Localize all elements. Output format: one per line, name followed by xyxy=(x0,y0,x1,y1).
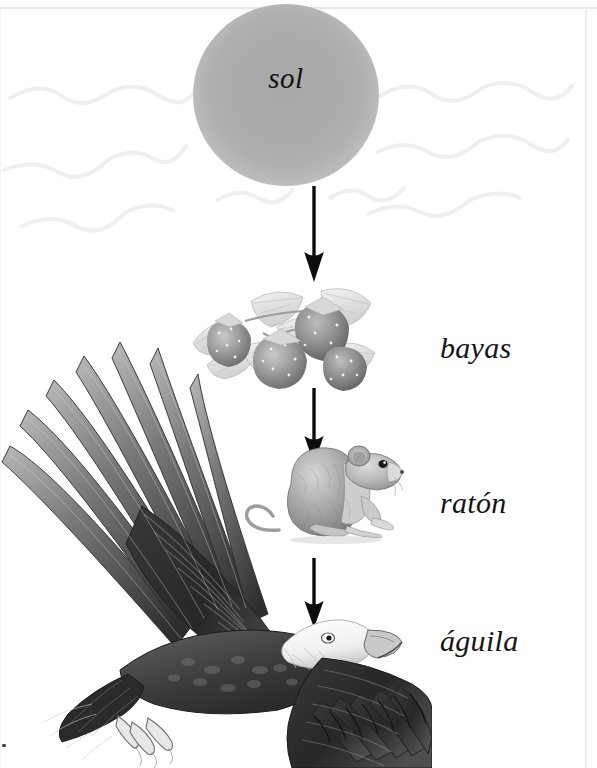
node-label-raton: ratón xyxy=(440,486,507,520)
node-aguila-illustration xyxy=(0,318,432,768)
node-label-aguila: águila xyxy=(440,624,518,658)
arrow-sol-to-bayas xyxy=(299,186,329,284)
illustration-page: sol xyxy=(0,0,597,768)
node-label-sol: sol xyxy=(193,62,379,95)
node-label-bayas: bayas xyxy=(440,331,512,365)
sun-disc-icon xyxy=(193,4,379,186)
node-sol: sol xyxy=(193,4,379,186)
